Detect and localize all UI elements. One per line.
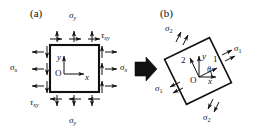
principal-axis-1-label: 1 [213, 55, 218, 64]
y-axis-label-a: y [57, 53, 61, 62]
axes-a [64, 56, 84, 74]
panel-b-graphics [165, 32, 235, 112]
sigma-y-bottom-label: σy [69, 116, 76, 126]
sigma-y-bottom-arrows [57, 95, 92, 106]
sigma-2-bottom-arrows [208, 99, 219, 112]
tau-xy-top-right-label: τxy [101, 31, 110, 41]
panel-a-tag: (a) [30, 8, 42, 19]
sigma-2-bottom-label: σ2 [203, 113, 211, 123]
x-axis-label-a: x [85, 73, 89, 82]
stress-transformation-figure: (a) σy σy σx σx τxy τxy y x O (b) σ2 σ1 … [0, 0, 260, 137]
sigma-x-left-arrows [32, 52, 44, 86]
origin-label-a: O [55, 69, 62, 78]
transition-arrow [135, 57, 157, 81]
panel-b-tag: (b) [160, 8, 173, 19]
sigma-1-left-label: σ1 [155, 84, 163, 94]
sigma-1-left-arrows [170, 82, 183, 93]
sigma-1-right-label: σ1 [234, 44, 242, 54]
sigma-x-right-label: σx [120, 63, 127, 73]
element-square-b [165, 38, 232, 105]
y-axis-label-b: y [202, 52, 206, 61]
tau-xy-bottom-left-label: τxy [30, 98, 39, 108]
figure-canvas [0, 0, 260, 137]
sigma-x-left-label: σx [10, 63, 17, 73]
sigma-x-right-arrows [105, 52, 117, 86]
origin-label-b: O [190, 76, 197, 85]
sigma-2-top-arrows [176, 32, 188, 45]
sigma-y-top-arrows [57, 31, 92, 42]
sigma-y-top-label: σy [69, 11, 76, 21]
panel-a-graphics [32, 31, 117, 106]
x-axis-label-b: x [208, 77, 212, 86]
theta-angle-label: θ [207, 66, 211, 74]
principal-axis-2-label: 2 [181, 56, 186, 65]
sigma-2-top-label: σ2 [165, 24, 173, 34]
